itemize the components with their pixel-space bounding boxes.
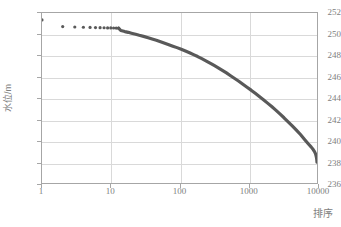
data-point-marker bbox=[73, 25, 76, 28]
y-axis-tick-mark bbox=[37, 141, 41, 142]
data-point-marker bbox=[61, 25, 64, 28]
x-axis-tick-mark bbox=[41, 184, 42, 188]
x-axis-tick-label: 1000 bbox=[240, 187, 258, 196]
y-axis-tick-label: 246 bbox=[305, 72, 341, 81]
data-point-marker bbox=[99, 26, 102, 29]
y-axis-tick-mark bbox=[37, 98, 41, 99]
y-axis-tick-label: 252 bbox=[305, 8, 341, 17]
y-axis-tick-mark bbox=[37, 120, 41, 121]
y-axis-label-wrap: 水位/m bbox=[0, 12, 14, 184]
x-axis-tick-label: 10000 bbox=[307, 187, 330, 196]
y-axis-tick-label: 250 bbox=[305, 29, 341, 38]
y-axis-tick-label: 244 bbox=[305, 94, 341, 103]
x-axis-tick-label: 100 bbox=[173, 187, 187, 196]
data-point-marker bbox=[106, 26, 109, 29]
x-axis-label: 排序 bbox=[313, 205, 333, 220]
water-level-duration-chart: 236238240242244246248250252 水位/m 1101001… bbox=[0, 0, 341, 227]
y-axis-tick-mark bbox=[37, 34, 41, 35]
data-point-marker bbox=[94, 26, 97, 29]
data-point-marker bbox=[117, 27, 120, 30]
y-axis-tick-label: 238 bbox=[305, 158, 341, 167]
x-axis-tick-mark bbox=[318, 184, 319, 188]
y-axis-tick-mark bbox=[37, 55, 41, 56]
y-axis-tick-label: 242 bbox=[305, 115, 341, 124]
data-point-marker bbox=[42, 18, 44, 21]
x-axis-tick-label: 1 bbox=[39, 187, 44, 196]
x-axis-tick-mark bbox=[110, 184, 111, 188]
x-axis-tick-mark bbox=[249, 184, 250, 188]
y-axis-tick-mark bbox=[37, 12, 41, 13]
y-axis-tick-label: 240 bbox=[305, 137, 341, 146]
x-axis-tick-mark bbox=[180, 184, 181, 188]
data-point-marker bbox=[109, 26, 112, 29]
x-axis-tick-label: 10 bbox=[106, 187, 115, 196]
data-point-marker bbox=[103, 26, 106, 29]
series-curve bbox=[119, 28, 317, 162]
data-point-marker bbox=[82, 26, 85, 29]
y-axis-tick-mark bbox=[37, 163, 41, 164]
plot-area bbox=[41, 12, 318, 184]
y-axis-tick-label: 248 bbox=[305, 51, 341, 60]
data-series bbox=[42, 13, 317, 183]
y-axis-tick-mark bbox=[37, 77, 41, 78]
y-axis-label: 水位/m bbox=[1, 84, 14, 112]
data-point-marker bbox=[88, 26, 91, 29]
